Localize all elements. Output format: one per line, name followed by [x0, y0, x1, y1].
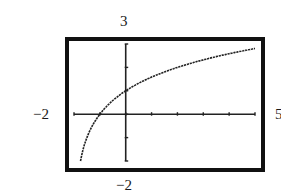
calculator-graph-window	[0, 0, 281, 195]
x-min-label: −2	[33, 107, 49, 122]
y-max-label: 3	[120, 14, 128, 29]
x-max-label: 5	[275, 107, 281, 122]
y-min-label: −2	[116, 178, 132, 193]
graph-frame	[67, 39, 263, 170]
